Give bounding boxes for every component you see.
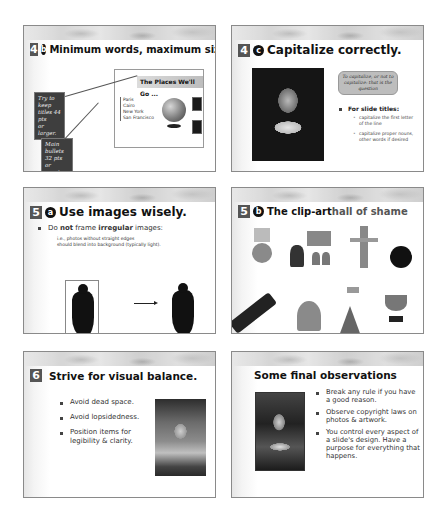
arms-clipart — [350, 238, 378, 242]
note: i.e., photos without straight edges shou… — [57, 236, 161, 248]
slide-4c-capitalize[interactable]: 4 c Capitalize correctly. To capitalize,… — [231, 25, 424, 172]
callout-line: Main bullets — [45, 141, 69, 155]
money-bag-clipart — [252, 243, 272, 263]
bomb-clipart — [390, 246, 412, 268]
thumbnail-image — [192, 97, 202, 111]
slide-5a-use-images[interactable]: 5 a Use images wisely. Do not frame irre… — [23, 187, 216, 334]
shakespeare-portrait — [252, 68, 324, 161]
slide-title: Minimum words, maximum size — [49, 44, 216, 55]
bullet-list: Avoid dead space. Avoid lopsidedness. Po… — [60, 398, 140, 452]
example-slide-title: The Places We'll Go ... — [137, 76, 203, 88]
emphasis-not: not — [60, 224, 73, 232]
slide-6-visual-balance[interactable]: 6 Strive for visual balance. Avoid dead … — [23, 351, 216, 498]
hand-clipart — [254, 228, 270, 242]
thumbnail-image — [192, 120, 202, 134]
shrugging-man-clipart — [360, 226, 368, 268]
mountain-climber-clipart — [339, 306, 361, 334]
callout-title-size: Try to keep titles 44 pts or larger. — [34, 92, 65, 140]
list-item: San Francisco — [123, 115, 154, 121]
section-letter-badge: b — [41, 44, 47, 55]
slide-final-observations[interactable]: Some final observations Break any rule i… — [231, 351, 424, 498]
slide-banner — [232, 352, 423, 366]
bullet-item: Observe copyright laws on photos & artwo… — [316, 408, 421, 424]
slide-banner — [24, 188, 215, 202]
bullet-list: Break any rule if you have a good reason… — [316, 388, 421, 464]
section-number-badge: 5 — [30, 206, 42, 219]
slide-4b-minimum-words[interactable]: 4 b Minimum words, maximum size The Plac… — [23, 25, 216, 172]
slide-title: Capitalize correctly. — [267, 43, 402, 57]
slide-title: Use images wisely. — [59, 205, 187, 219]
text-span: Do — [48, 224, 60, 232]
callout-line: or greater. — [45, 162, 69, 172]
callout-line: or larger. — [38, 123, 61, 137]
dog-silhouette-unframed — [172, 290, 194, 334]
note-line: should blend into background (typically … — [57, 242, 161, 248]
flag-clipart — [347, 287, 359, 293]
slide-5b-clipart-hall-of-shame[interactable]: 5 b The clip-art hall of shame — [231, 187, 424, 334]
section-letter-badge: b — [253, 206, 264, 217]
leader-line — [64, 102, 99, 139]
slide-title-strong: The clip-art — [267, 206, 332, 217]
text-span: frame — [73, 224, 98, 232]
presenter-clipart — [290, 245, 304, 267]
slide-title-row: 5 b The clip-art hall of shame — [238, 205, 419, 218]
section-number-badge: 4 — [30, 43, 38, 56]
money-man-clipart — [297, 301, 321, 331]
callout-line: titles 44 pts — [38, 109, 61, 123]
trophy-cup-clipart — [385, 295, 407, 311]
presentation-board-clipart — [307, 231, 331, 246]
globe-image — [162, 98, 186, 122]
audience-clipart — [322, 252, 330, 265]
arrow-icon — [134, 303, 156, 304]
bullet-item: Break any rule if you have a good reason… — [316, 388, 421, 404]
bullet-item: Avoid lopsidedness. — [60, 413, 140, 422]
section-number-badge: 6 — [30, 369, 42, 382]
globe-stand — [167, 124, 181, 128]
sub-bullet: capitalize the first letter of the line — [353, 115, 415, 127]
coin-binocular-viewer-photo — [255, 392, 305, 471]
section-number-badge: 4 — [238, 44, 250, 57]
slide-banner — [24, 26, 215, 40]
callout-bullet-size: Main bullets 32 pts or greater. — [41, 138, 73, 172]
slide-banner — [232, 188, 423, 202]
bullet-item: Do not frame irregular images: — [38, 224, 163, 232]
bullet-item: Position items for legibility & clarity. — [60, 428, 140, 446]
speech-bubble: To capitalize, or not to capitalize: tha… — [338, 71, 398, 95]
capitol-building-photo — [155, 399, 206, 476]
audience-clipart — [312, 252, 320, 265]
callout-line: 32 pts — [45, 155, 69, 162]
slide-title-row: 4 b Minimum words, maximum size — [30, 43, 211, 56]
sub-bullet: capitalize proper nouns, other words if … — [353, 131, 415, 143]
slide-banner — [24, 352, 215, 366]
slide-title: Strive for visual balance. — [49, 370, 197, 382]
framed-dog-image — [65, 280, 99, 334]
section-letter-badge: c — [253, 45, 264, 56]
champagne-bottle-clipart — [231, 292, 277, 334]
slide-title-row: 6 Strive for visual balance. — [30, 369, 211, 382]
emphasis-irregular: irregular — [98, 224, 133, 232]
callout-line: Try to keep — [38, 95, 61, 109]
slide-title: Some final observations — [254, 369, 397, 381]
slide-title-row: 5 a Use images wisely. — [30, 205, 211, 219]
slide-title-muted: hall of shame — [332, 206, 408, 217]
section-number-badge: 5 — [238, 205, 250, 218]
slide-title-row: Some final observations — [254, 369, 419, 381]
section-letter-badge: a — [45, 207, 56, 218]
bullet-item: Avoid dead space. — [60, 398, 140, 407]
slide-title-row: 4 c Capitalize correctly. — [238, 43, 419, 57]
slide-banner — [232, 26, 423, 40]
text-span: images: — [133, 224, 163, 232]
bullet-item: You control every aspect of a slide's de… — [316, 428, 421, 460]
trophy-base-clipart — [389, 316, 403, 322]
dog-silhouette — [72, 291, 94, 334]
example-slide: The Places We'll Go ... Paris Cairo New … — [114, 69, 204, 148]
bullet-heading: For slide titles: — [339, 105, 399, 112]
example-slide-list: Paris Cairo New York San Francisco — [120, 97, 154, 121]
